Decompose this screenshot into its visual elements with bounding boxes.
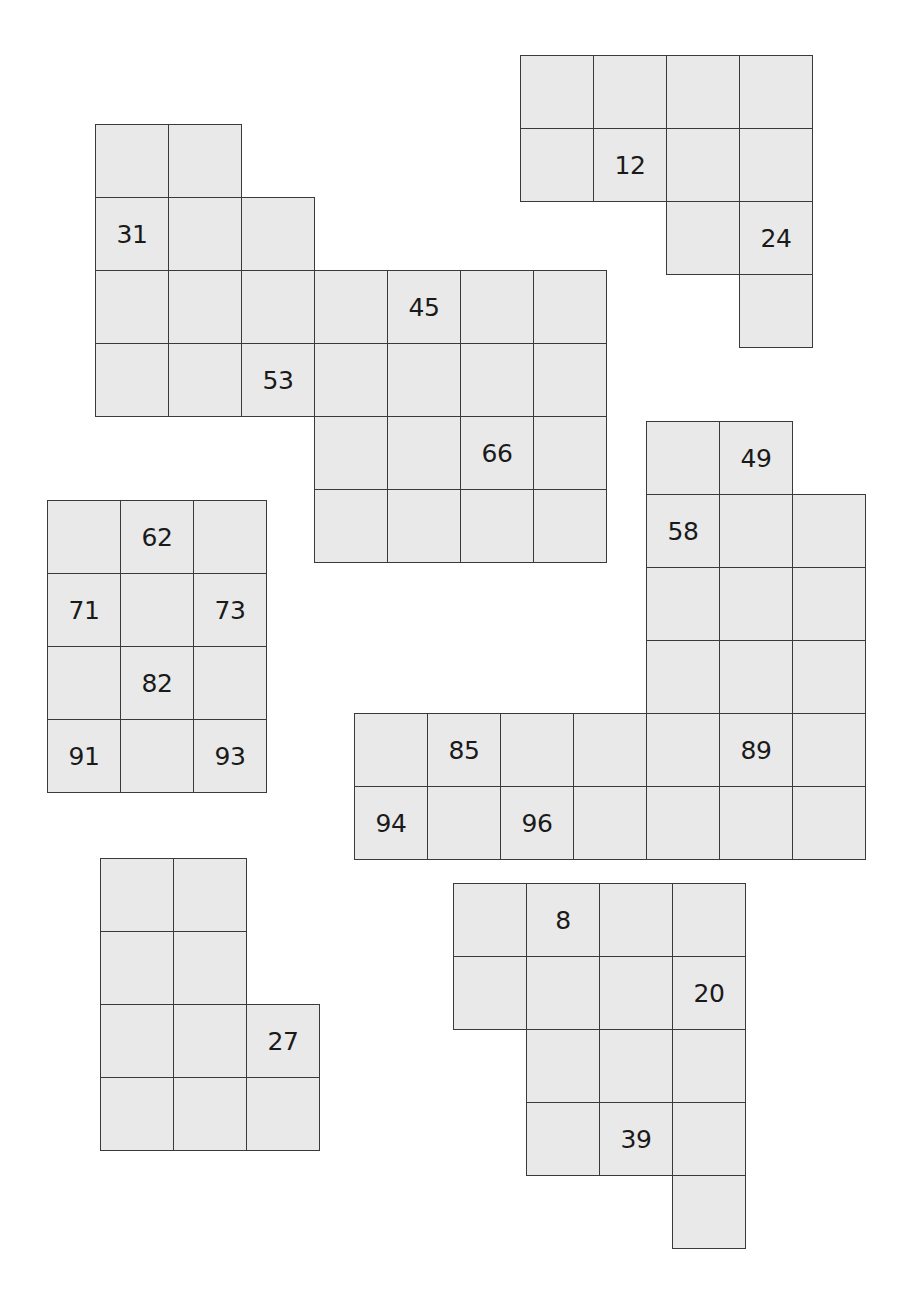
grid-cell	[672, 1175, 746, 1249]
grid-cell	[792, 640, 866, 714]
grid-cell	[100, 858, 174, 932]
grid-cell	[47, 500, 121, 574]
puzzle-page: 3153456612246271738291934958858994962782…	[0, 0, 907, 1292]
grid-cell	[526, 1102, 600, 1176]
grid-cell	[47, 646, 121, 720]
grid-cell-numbered: 82	[120, 646, 194, 720]
grid-cell	[314, 270, 388, 344]
grid-cell-numbered: 27	[246, 1004, 320, 1078]
grid-cell	[533, 489, 607, 563]
grid-cell	[100, 1004, 174, 1078]
grid-cell	[100, 1077, 174, 1151]
grid-cell	[533, 343, 607, 417]
grid-cell	[387, 416, 461, 490]
grid-cell	[453, 883, 527, 957]
grid-cell-numbered: 71	[47, 573, 121, 647]
grid-cell	[533, 416, 607, 490]
grid-cell	[241, 270, 315, 344]
grid-cell-numbered: 49	[719, 421, 793, 495]
grid-cell	[599, 1029, 673, 1103]
grid-cell	[460, 270, 534, 344]
grid-cell	[168, 124, 242, 198]
grid-cell-numbered: 12	[593, 128, 667, 202]
grid-cell-numbered: 93	[193, 719, 267, 793]
grid-cell	[739, 274, 813, 348]
grid-cell	[168, 197, 242, 271]
grid-cell-numbered: 73	[193, 573, 267, 647]
grid-cell	[500, 713, 574, 787]
grid-cell	[672, 883, 746, 957]
grid-cell	[646, 421, 720, 495]
grid-cell	[792, 567, 866, 641]
grid-cell-numbered: 53	[241, 343, 315, 417]
grid-cell	[599, 883, 673, 957]
grid-cell	[646, 640, 720, 714]
grid-cell	[739, 55, 813, 129]
grid-cell	[792, 494, 866, 568]
grid-cell	[739, 128, 813, 202]
grid-cell	[193, 500, 267, 574]
grid-cell	[314, 416, 388, 490]
grid-cell	[792, 786, 866, 860]
grid-cell	[453, 956, 527, 1030]
grid-cell-numbered: 94	[354, 786, 428, 860]
grid-cell-numbered: 96	[500, 786, 574, 860]
grid-cell	[573, 786, 647, 860]
grid-cell	[792, 713, 866, 787]
grid-cell-numbered: 89	[719, 713, 793, 787]
grid-cell	[95, 124, 169, 198]
grid-cell-numbered: 85	[427, 713, 501, 787]
grid-cell	[573, 713, 647, 787]
grid-cell	[246, 1077, 320, 1151]
grid-cell-numbered: 31	[95, 197, 169, 271]
grid-cell	[526, 1029, 600, 1103]
grid-cell	[599, 956, 673, 1030]
grid-cell-numbered: 62	[120, 500, 194, 574]
grid-cell	[173, 1077, 247, 1151]
grid-cell	[387, 343, 461, 417]
grid-cell	[241, 197, 315, 271]
grid-cell	[666, 55, 740, 129]
grid-cell	[95, 270, 169, 344]
grid-cell-numbered: 20	[672, 956, 746, 1030]
grid-cell	[672, 1102, 746, 1176]
grid-cell	[520, 128, 594, 202]
grid-cell	[646, 567, 720, 641]
grid-cell	[173, 931, 247, 1005]
grid-cell-numbered: 66	[460, 416, 534, 490]
grid-cell	[719, 494, 793, 568]
grid-cell-numbered: 24	[739, 201, 813, 275]
grid-cell-numbered: 58	[646, 494, 720, 568]
grid-cell	[100, 931, 174, 1005]
grid-cell	[526, 956, 600, 1030]
grid-cell	[719, 640, 793, 714]
grid-cell	[95, 343, 169, 417]
grid-cell	[314, 343, 388, 417]
grid-cell	[168, 270, 242, 344]
grid-cell	[354, 713, 428, 787]
grid-cell	[193, 646, 267, 720]
grid-cell-numbered: 91	[47, 719, 121, 793]
grid-cell	[719, 786, 793, 860]
grid-cell	[666, 201, 740, 275]
grid-cell	[520, 55, 594, 129]
grid-cell	[173, 1004, 247, 1078]
grid-cell	[460, 489, 534, 563]
grid-cell	[533, 270, 607, 344]
grid-cell	[593, 55, 667, 129]
grid-cell	[120, 719, 194, 793]
grid-cell	[672, 1029, 746, 1103]
grid-cell	[173, 858, 247, 932]
grid-cell	[666, 128, 740, 202]
grid-cell	[427, 786, 501, 860]
grid-cell	[120, 573, 194, 647]
grid-cell	[719, 567, 793, 641]
grid-cell	[387, 489, 461, 563]
grid-cell	[646, 786, 720, 860]
grid-cell	[646, 713, 720, 787]
grid-cell	[460, 343, 534, 417]
grid-cell-numbered: 8	[526, 883, 600, 957]
grid-cell-numbered: 45	[387, 270, 461, 344]
grid-cell	[314, 489, 388, 563]
grid-cell-numbered: 39	[599, 1102, 673, 1176]
